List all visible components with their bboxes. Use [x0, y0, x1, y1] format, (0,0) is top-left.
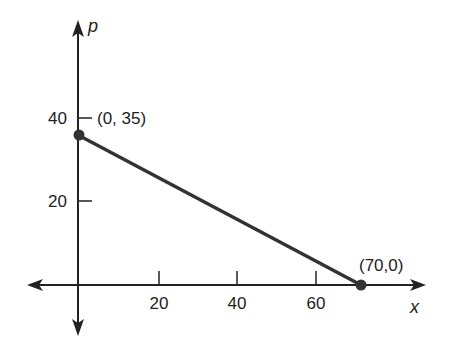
- x-axis-label: x: [409, 297, 420, 317]
- data-line: [78, 135, 361, 285]
- point-label-70-0: (70,0): [359, 256, 403, 275]
- y-axis-label: p: [87, 16, 98, 36]
- point-0-35: [74, 130, 85, 141]
- chart-canvas: 20 40 60 40 20 p x (0, 35) (70,0): [0, 0, 468, 350]
- x-tick-label-40: 40: [228, 294, 247, 313]
- point-70-0: [356, 280, 367, 291]
- y-tick-label-40: 40: [48, 109, 67, 128]
- y-tick-label-20: 20: [48, 192, 67, 211]
- point-label-0-35: (0, 35): [97, 109, 146, 128]
- x-tick-label-60: 60: [307, 294, 326, 313]
- x-tick-label-20: 20: [150, 294, 169, 313]
